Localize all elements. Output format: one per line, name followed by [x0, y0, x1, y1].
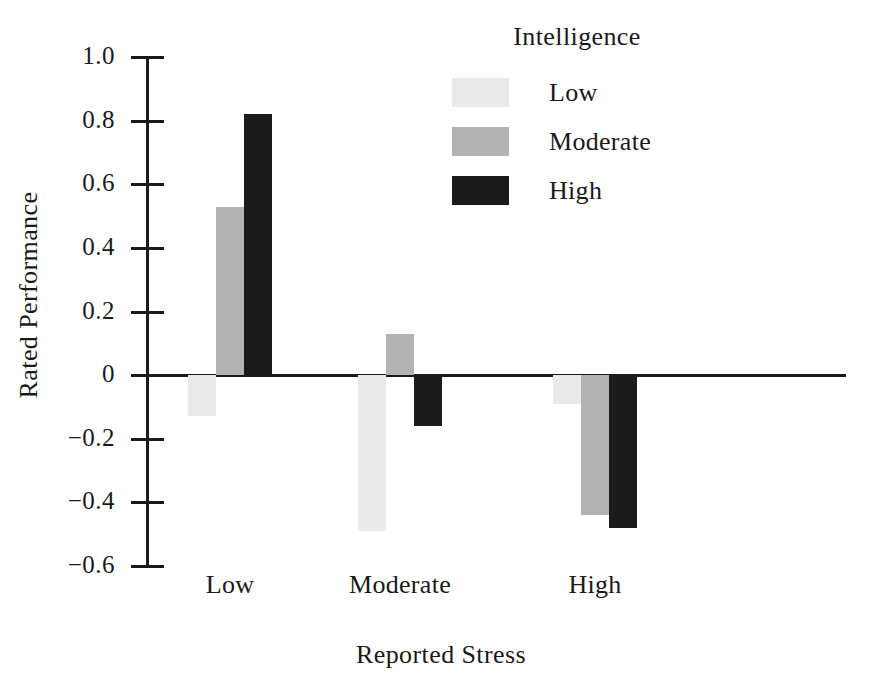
x-category-label-1: Moderate	[300, 570, 500, 600]
legend-swatch-high	[452, 176, 509, 205]
bar-low-low	[188, 375, 216, 416]
legend-item-moderate: Moderate	[452, 127, 752, 156]
x-axis-title: Reported Stress	[0, 640, 882, 670]
bar-high-high	[609, 375, 637, 528]
y-tick-label-6: −0.2	[57, 425, 115, 450]
legend-label-low: Low	[549, 80, 598, 106]
legend-items: LowModerateHigh	[452, 78, 752, 205]
y-tick-2	[131, 183, 164, 186]
y-tick-label-0: 1.0	[57, 43, 115, 68]
legend-item-high: High	[452, 176, 752, 205]
legend-swatch-low	[452, 78, 509, 107]
x-category-label-2: High	[495, 570, 695, 600]
y-tick-7	[131, 501, 164, 504]
y-tick-label-5: 0	[57, 361, 115, 386]
y-tick-label-8: −0.6	[57, 552, 115, 577]
y-tick-4	[131, 311, 164, 314]
bar-low-high	[244, 114, 272, 375]
y-tick-0	[131, 56, 164, 59]
y-tick-6	[131, 438, 164, 441]
y-axis-title: Rated Performance	[14, 170, 44, 420]
legend-title: Intelligence	[452, 22, 702, 52]
plot-area: 1.00.80.60.40.20−0.2−0.4−0.6 LowModerate…	[0, 0, 882, 692]
legend-item-low: Low	[452, 78, 752, 107]
bar-moderate-high	[414, 375, 442, 426]
legend-label-high: High	[549, 178, 602, 204]
bar-moderate-moderate	[386, 334, 414, 375]
y-tick-3	[131, 247, 164, 250]
y-tick-label-7: −0.4	[57, 488, 115, 513]
chart-figure: 1.00.80.60.40.20−0.2−0.4−0.6 LowModerate…	[0, 0, 882, 692]
y-tick-8	[131, 565, 164, 568]
bar-moderate-low	[358, 375, 386, 531]
y-tick-label-4: 0.2	[57, 298, 115, 323]
y-tick-label-2: 0.6	[57, 170, 115, 195]
bar-low-moderate	[216, 207, 244, 376]
y-tick-5	[131, 374, 147, 377]
legend-label-moderate: Moderate	[549, 129, 651, 155]
legend: Intelligence LowModerateHigh	[452, 22, 752, 225]
bar-high-moderate	[581, 375, 609, 515]
legend-swatch-moderate	[452, 127, 509, 156]
bar-high-low	[553, 375, 581, 404]
y-tick-1	[131, 120, 164, 123]
y-tick-label-1: 0.8	[57, 107, 115, 132]
y-tick-label-3: 0.4	[57, 234, 115, 259]
